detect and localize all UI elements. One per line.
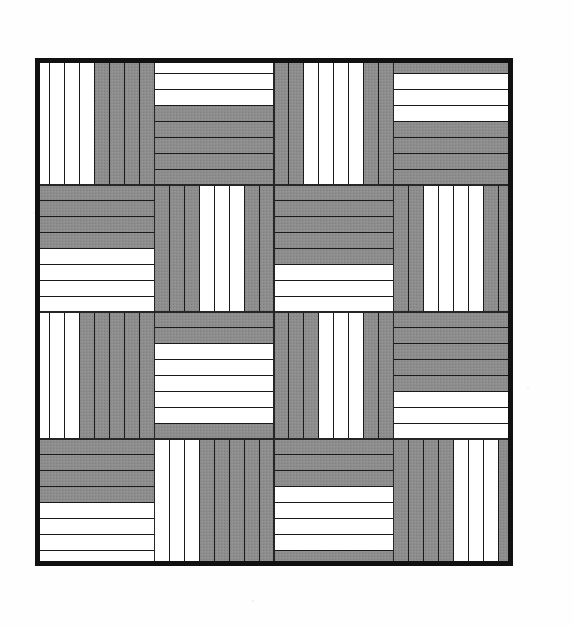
dark-strip [394, 312, 514, 328]
dark-strip [155, 328, 275, 344]
dark-strip [394, 185, 409, 312]
light-strip [334, 312, 349, 439]
dark-strip [125, 312, 140, 439]
dark-strip [394, 169, 514, 185]
dark-strip [408, 185, 423, 312]
light-strip [214, 185, 229, 312]
dark-strip [80, 312, 95, 439]
light-strip [483, 439, 498, 566]
light-strip [50, 312, 65, 439]
dark-strip [155, 312, 275, 328]
dark-strip [394, 344, 514, 360]
light-strip [35, 264, 155, 280]
light-strip [394, 423, 514, 439]
light-strip [274, 534, 394, 550]
dark-strip [394, 122, 514, 138]
dark-strip [155, 153, 275, 169]
light-strip [319, 312, 334, 439]
light-strip [35, 503, 155, 519]
light-strip [274, 280, 394, 296]
light-strip [468, 439, 483, 566]
light-strip [349, 58, 364, 185]
dark-strip [379, 312, 394, 439]
light-strip [50, 58, 65, 185]
dark-strip [289, 58, 304, 185]
light-strip [155, 90, 275, 106]
dark-strip [95, 312, 110, 439]
light-strip [155, 407, 275, 423]
light-strip [155, 391, 275, 407]
light-strip [394, 74, 514, 90]
dark-strip [169, 185, 184, 312]
dark-strip [379, 58, 394, 185]
dark-strip [394, 439, 409, 566]
light-strip [394, 90, 514, 106]
dark-strip [364, 58, 379, 185]
light-strip [334, 58, 349, 185]
light-strip [155, 74, 275, 90]
dark-strip [95, 58, 110, 185]
dark-strip [155, 137, 275, 153]
dark-strip [259, 439, 274, 566]
light-strip [274, 518, 394, 534]
light-strip [35, 280, 155, 296]
light-strip [184, 439, 199, 566]
dark-strip [155, 185, 170, 312]
dark-strip [229, 439, 244, 566]
dark-strip [289, 312, 304, 439]
light-strip [274, 296, 394, 312]
dark-strip [214, 439, 229, 566]
light-strip [349, 312, 364, 439]
dark-strip [244, 185, 259, 312]
light-strip [468, 185, 483, 312]
light-strip [155, 344, 275, 360]
light-strip [319, 58, 334, 185]
dark-strip [35, 439, 155, 455]
light-strip [169, 439, 184, 566]
dark-strip [35, 185, 155, 201]
dark-strip [199, 439, 214, 566]
dark-strip [274, 58, 289, 185]
dark-strip [274, 439, 394, 455]
light-strip [35, 518, 155, 534]
quilt-pattern-svg [35, 58, 513, 566]
dark-strip [155, 423, 275, 439]
dark-strip [274, 249, 394, 265]
dark-strip [394, 153, 514, 169]
light-strip [155, 360, 275, 376]
dark-strip [483, 185, 498, 312]
light-strip [394, 407, 514, 423]
light-strip [394, 106, 514, 122]
dark-strip [274, 185, 394, 201]
dark-strip [408, 439, 423, 566]
dark-strip [394, 137, 514, 153]
dark-strip [274, 455, 394, 471]
light-strip [155, 439, 170, 566]
dark-strip [35, 233, 155, 249]
dark-strip [35, 201, 155, 217]
light-strip [274, 503, 394, 519]
light-strip [394, 391, 514, 407]
dark-strip [274, 471, 394, 487]
light-strip [65, 58, 80, 185]
dark-strip [110, 312, 125, 439]
dark-strip [35, 455, 155, 471]
dark-strip [244, 439, 259, 566]
page-canvas [0, 0, 574, 626]
dark-strip [110, 58, 125, 185]
light-strip [423, 185, 438, 312]
dark-strip [155, 169, 275, 185]
light-strip [304, 58, 319, 185]
quilt-diagram-frame [35, 58, 513, 566]
light-strip [438, 185, 453, 312]
dark-strip [394, 376, 514, 392]
dark-strip [140, 312, 155, 439]
dark-strip [364, 312, 379, 439]
dark-strip [155, 122, 275, 138]
dark-strip [35, 217, 155, 233]
light-strip [453, 185, 468, 312]
dark-strip [184, 185, 199, 312]
light-strip [274, 487, 394, 503]
dark-strip [394, 360, 514, 376]
light-strip [229, 185, 244, 312]
